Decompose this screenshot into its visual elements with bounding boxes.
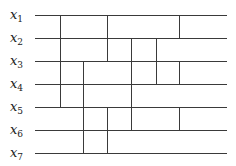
sorting-network-diagram: x1x2x3x4x5x6x7 bbox=[0, 0, 236, 166]
wire-label-1: x1 bbox=[10, 7, 23, 24]
wire-label-7: x7 bbox=[10, 145, 23, 162]
wire-label-2: x2 bbox=[10, 30, 23, 47]
wire-label-6: x6 bbox=[10, 122, 23, 139]
wire-label-3: x3 bbox=[10, 53, 23, 70]
wire-label-4: x4 bbox=[10, 76, 23, 93]
wire-labels: x1x2x3x4x5x6x7 bbox=[10, 7, 23, 162]
wire-label-5: x5 bbox=[10, 99, 23, 116]
